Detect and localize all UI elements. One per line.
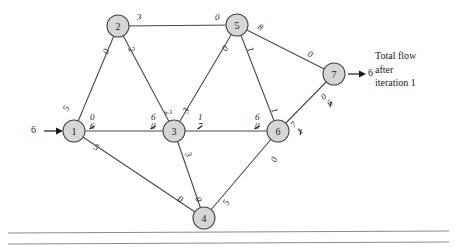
node-2[interactable]: 2 <box>107 15 129 37</box>
source-inflow-value: 6 <box>31 124 36 135</box>
caption-line-2: after <box>375 63 416 77</box>
node-5[interactable]: 5 <box>226 14 248 36</box>
node-1[interactable]: 1 <box>63 120 85 142</box>
label-3-6-at-3: 17 <box>198 113 203 132</box>
edge-3-5 <box>174 25 237 131</box>
node-label-4: 4 <box>202 213 207 224</box>
caption-line-1: Total flow <box>375 49 416 63</box>
node-7[interactable]: 7 <box>323 63 345 85</box>
label-1-3-at-1-old-value: 6 <box>90 122 95 131</box>
figure-caption: Total flowafteriteration 1 <box>375 49 416 90</box>
label-1-3-at-3: 60 <box>151 113 156 132</box>
node-4[interactable]: 4 <box>193 207 215 229</box>
label-1-3-at-1: 06 <box>90 113 95 132</box>
edge-1-2 <box>74 26 118 131</box>
sink-outflow-arrow <box>348 71 366 78</box>
node-label-3: 3 <box>172 126 177 137</box>
node-label-5: 5 <box>235 20 240 31</box>
label-1-3-at-3-old-value: 0 <box>151 122 156 131</box>
bottom-rule-upper <box>8 231 449 233</box>
caption-line-3: iteration 1 <box>375 76 416 90</box>
label-2-5-at-5: 0 <box>215 13 220 22</box>
edge-1-4 <box>74 131 204 218</box>
edge-3-4 <box>174 131 204 218</box>
network-flow-figure: 1234567 6 6 Total flowafteriteration 1 5… <box>0 0 457 251</box>
node-3[interactable]: 3 <box>163 120 185 142</box>
node-label-7: 7 <box>332 69 337 80</box>
node-label-6: 6 <box>276 126 281 137</box>
label-3-6-at-6: 60 <box>255 113 260 132</box>
source-inflow-arrow <box>44 128 63 135</box>
nodes-layer: 1234567 <box>63 14 345 229</box>
label-3-6-at-3-old-value: 7 <box>198 122 203 131</box>
edge-2-5 <box>118 25 237 26</box>
network-graph: 1234567 <box>0 0 457 251</box>
node-label-1: 1 <box>72 126 77 137</box>
label-3-6-at-6-old-value: 0 <box>255 122 260 131</box>
sink-outflow-value: 6 <box>368 67 373 78</box>
node-6[interactable]: 6 <box>267 120 289 142</box>
edge-4-6 <box>204 131 278 218</box>
node-label-2: 2 <box>116 21 121 32</box>
label-2-5-at-2: 3 <box>137 13 142 22</box>
bottom-rule-lower <box>8 242 449 244</box>
